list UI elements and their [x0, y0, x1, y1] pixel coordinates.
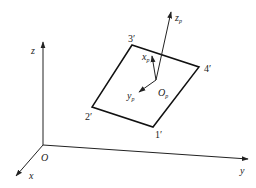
- y-axis-label: y: [239, 165, 245, 176]
- corner-2-label: 2′: [85, 111, 92, 122]
- zp-axis: [156, 12, 171, 80]
- diagram-svg: z y x O 1′ 2′ 3′ 4′ zp xp yp Op: [0, 0, 256, 188]
- y-axis: [43, 145, 248, 159]
- corner-1-label: 1′: [155, 129, 162, 140]
- xp-axis: [152, 56, 156, 80]
- yp-axis: [139, 80, 156, 92]
- yp-axis-label: yp: [126, 90, 134, 102]
- local-axes: zp xp yp Op: [126, 12, 182, 102]
- plate: 1′ 2′ 3′ 4′: [85, 33, 211, 140]
- z-axis-label: z: [30, 45, 35, 56]
- x-axis-label: x: [28, 170, 34, 181]
- origin-label: O: [41, 152, 48, 163]
- corner-3-label: 3′: [128, 33, 135, 44]
- local-origin-label: Op: [158, 87, 168, 99]
- coordinate-diagram: z y x O 1′ 2′ 3′ 4′ zp xp yp Op: [0, 0, 256, 188]
- global-axes: z y x O: [16, 42, 248, 181]
- xp-axis-label: xp: [141, 51, 149, 63]
- corner-4-label: 4′: [204, 63, 211, 74]
- zp-axis-label: zp: [174, 12, 182, 24]
